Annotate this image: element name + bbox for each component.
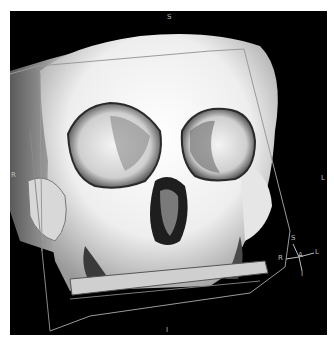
axis-label-anterior: A xyxy=(298,252,303,259)
orientation-label-inferior: I xyxy=(166,327,168,334)
axis-label-inferior: I xyxy=(301,271,303,278)
orientation-label-right: R xyxy=(11,172,16,179)
orientation-axes-widget: S R A L I xyxy=(278,231,327,281)
3d-render-viewport[interactable]: S I R L S R A L I xyxy=(10,11,327,335)
axis-label-right: R xyxy=(278,255,283,262)
axis-label-left: L xyxy=(315,249,319,256)
orientation-label-left: L xyxy=(321,175,325,182)
orientation-label-superior: S xyxy=(167,14,171,21)
skull-volume-render xyxy=(10,11,327,335)
axis-label-superior: S xyxy=(291,235,295,242)
